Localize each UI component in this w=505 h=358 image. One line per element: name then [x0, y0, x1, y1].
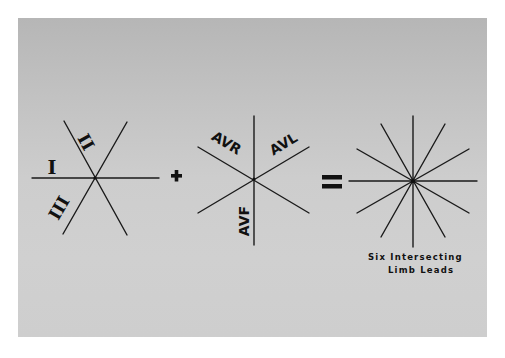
caption-line-2: Limb Leads: [388, 266, 454, 275]
limb-leads-diagram: I II III AVR AVL AVF: [0, 0, 505, 358]
lead-I-label: I: [48, 156, 57, 178]
lead-III-label: III: [44, 193, 73, 224]
lead-aVR-label: AVR: [209, 128, 244, 158]
augmented-leads-diagram: AVR AVL AVF: [198, 116, 309, 245]
bipolar-leads-diagram: I II III: [32, 121, 159, 235]
augmented-center-point: [252, 177, 255, 180]
lead-II-label: II: [73, 130, 98, 154]
equals-operator: [322, 175, 342, 189]
hexaxial-center-point: [411, 179, 415, 183]
plus-operator: [171, 170, 182, 182]
lead-aVL-label: AVL: [267, 129, 301, 158]
hexaxial-diagram: [349, 116, 477, 247]
lead-aVF-label: AVF: [236, 206, 252, 236]
caption-line-1: Six Intersecting: [368, 253, 463, 262]
bipolar-center-point: [93, 176, 96, 179]
